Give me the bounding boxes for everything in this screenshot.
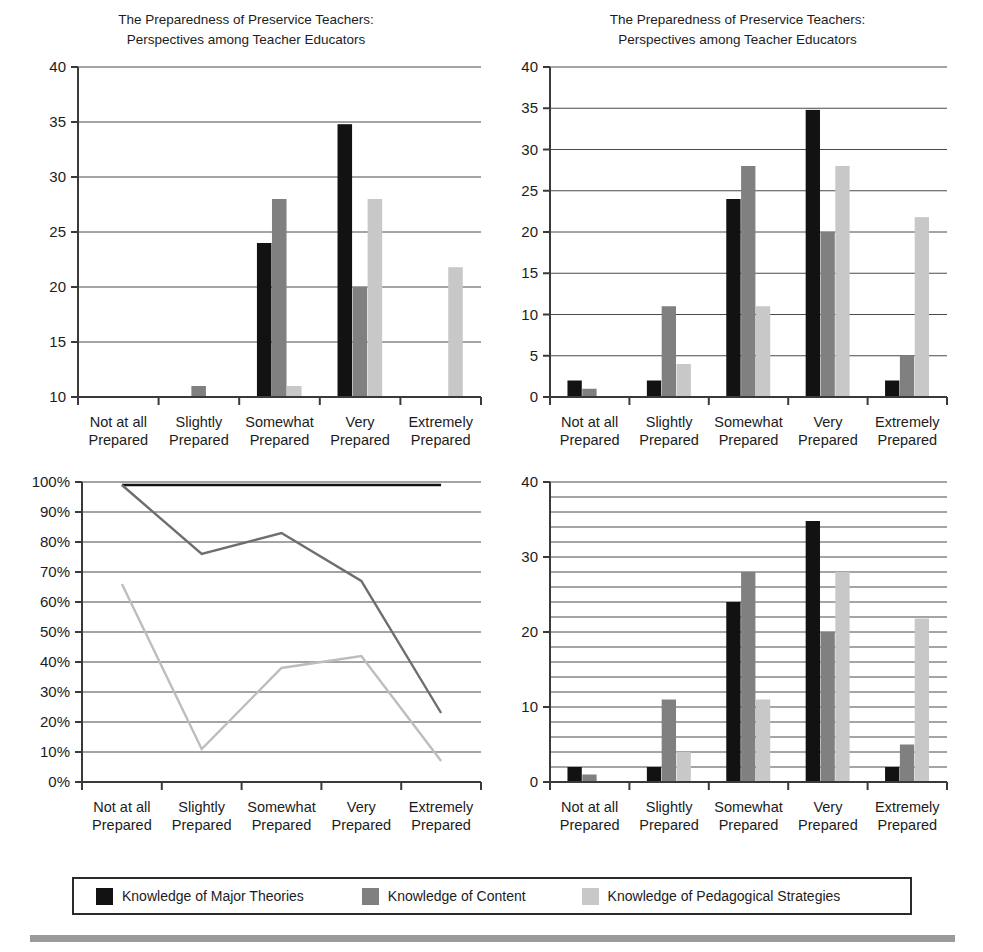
chart-title-line-2: Perspectives among Teacher Educators <box>492 30 983 50</box>
y-axis-tick-label: 15 <box>49 333 66 350</box>
legend-swatch-black <box>96 888 113 905</box>
bar <box>287 386 302 397</box>
category-label-line-2: Prepared <box>639 432 699 448</box>
bar <box>820 232 834 397</box>
y-axis-tick-label: 15 <box>521 264 538 281</box>
category-label-line-1: Extremely <box>875 414 940 430</box>
bar <box>191 386 206 397</box>
bar <box>915 217 929 397</box>
category-label-line-2: Prepared <box>877 432 937 448</box>
x-axis-category-label: SlightlyPrepared <box>169 414 229 448</box>
bar <box>338 124 353 397</box>
legend-label: Knowledge of Major Theories <box>122 888 304 904</box>
x-axis-category-label: Not at allPrepared <box>560 414 620 448</box>
bar <box>567 767 581 782</box>
y-axis-tick-label: 5 <box>530 347 538 364</box>
x-axis-category-label: Not at allPrepared <box>88 414 148 448</box>
category-label-line-1: Somewhat <box>245 414 314 430</box>
bar <box>741 572 755 782</box>
bar <box>647 381 661 398</box>
bar <box>677 364 691 397</box>
chart-svg-bottom-right: 010203040Not at allPreparedSlightlyPrepa… <box>492 462 983 862</box>
bar <box>900 745 914 783</box>
y-axis-tick-label: 20 <box>49 278 66 295</box>
legend-swatch-light-gray <box>582 888 599 905</box>
x-axis-category-label: SomewhatPrepared <box>714 799 783 833</box>
y-axis-tick-label: 20 <box>521 623 538 640</box>
category-label-line-2: Prepared <box>250 432 310 448</box>
category-label-line-2: Prepared <box>560 432 620 448</box>
chart-title-top-left: The Preparedness of Preservice Teachers:… <box>0 0 492 49</box>
y-axis-tick-label: 25 <box>49 223 66 240</box>
category-label-line-1: Slightly <box>646 799 693 815</box>
chart-legend: Knowledge of Major Theories Knowledge of… <box>72 877 912 915</box>
category-label-line-2: Prepared <box>719 817 779 833</box>
bar <box>900 356 914 397</box>
x-axis-category-label: SlightlyPrepared <box>639 799 699 833</box>
chart-svg-bottom-left: 0%10%20%30%40%50%60%70%80%90%100%Not at … <box>0 462 492 862</box>
x-axis-category-label: SlightlyPrepared <box>172 799 232 833</box>
category-label-line-1: Very <box>813 414 843 430</box>
bar <box>448 267 463 397</box>
category-label-line-1: Extremely <box>875 799 940 815</box>
bar <box>915 619 929 783</box>
y-axis-tick-label: 20 <box>521 223 538 240</box>
line-series <box>122 584 441 761</box>
x-axis-category-label: SomewhatPrepared <box>714 414 783 448</box>
y-axis-tick-label: 60% <box>40 593 70 610</box>
y-axis-tick-label: 90% <box>40 503 70 520</box>
y-axis-tick-label: 40 <box>521 473 538 490</box>
chart-svg-top-left: 10152025303540Not at allPreparedSlightly… <box>0 49 492 459</box>
y-axis-tick-label: 30 <box>521 548 538 565</box>
y-axis-tick-label: 30 <box>49 168 66 185</box>
bar <box>662 700 676 783</box>
y-axis-tick-label: 20% <box>40 713 70 730</box>
category-label-line-1: Very <box>813 799 843 815</box>
category-label-line-1: Somewhat <box>714 799 783 815</box>
y-axis-tick-label: 40 <box>521 58 538 75</box>
y-axis-tick-label: 25 <box>521 182 538 199</box>
bar <box>726 199 740 397</box>
chart-panel-bottom-right: 010203040Not at allPreparedSlightlyPrepa… <box>492 462 983 862</box>
y-axis-tick-label: 40 <box>49 58 66 75</box>
x-axis-category-label: SlightlyPrepared <box>639 414 699 448</box>
y-axis-tick-label: 30 <box>521 141 538 158</box>
category-label-line-1: Not at all <box>90 414 147 430</box>
category-label-line-2: Prepared <box>639 817 699 833</box>
x-axis-category-label: SomewhatPrepared <box>245 414 314 448</box>
bar <box>272 199 287 397</box>
bar <box>756 700 770 783</box>
category-label-line-2: Prepared <box>877 817 937 833</box>
legend-item-content: Knowledge of Content <box>362 888 526 905</box>
y-axis-tick-label: 35 <box>49 113 66 130</box>
chart-title-top-right: The Preparedness of Preservice Teachers:… <box>492 0 983 49</box>
bar <box>741 166 755 397</box>
x-axis-category-label: VeryPrepared <box>798 799 858 833</box>
category-label-line-2: Prepared <box>92 817 152 833</box>
footer-rule <box>30 935 955 942</box>
bar <box>820 632 834 782</box>
bar <box>835 166 849 397</box>
category-label-line-1: Slightly <box>178 799 225 815</box>
chart-panel-top-left: The Preparedness of Preservice Teachers:… <box>0 0 492 470</box>
bar <box>353 287 368 397</box>
y-axis-tick-label: 10% <box>40 743 70 760</box>
category-label-line-1: Slightly <box>176 414 223 430</box>
category-label-line-2: Prepared <box>560 817 620 833</box>
bar <box>835 572 849 782</box>
category-label-line-2: Prepared <box>172 817 232 833</box>
category-label-line-2: Prepared <box>252 817 312 833</box>
bar <box>582 775 596 783</box>
category-label-line-1: Extremely <box>408 414 473 430</box>
x-axis-category-label: ExtremelyPrepared <box>408 414 473 448</box>
category-label-line-1: Very <box>347 799 377 815</box>
x-axis-category-label: ExtremelyPrepared <box>875 414 940 448</box>
category-label-line-2: Prepared <box>411 432 471 448</box>
bar <box>582 389 596 397</box>
y-axis-tick-label: 35 <box>521 99 538 116</box>
bar <box>885 767 899 782</box>
category-label-line-1: Somewhat <box>714 414 783 430</box>
bar <box>726 602 740 782</box>
bar <box>806 521 820 782</box>
category-label-line-2: Prepared <box>88 432 148 448</box>
